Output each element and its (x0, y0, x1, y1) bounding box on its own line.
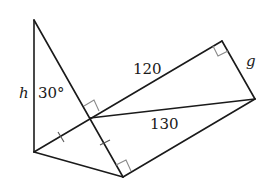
label-g: g (246, 52, 256, 70)
segment-b-c (34, 152, 123, 177)
right-angle-mark-o (84, 100, 99, 111)
label-h: h (19, 84, 29, 102)
geometry-diagram: h 30° 120 130 g (0, 0, 269, 191)
label-120: 120 (133, 60, 162, 78)
label-130: 130 (150, 115, 179, 133)
segment-c-e (123, 99, 255, 177)
segment-g (222, 41, 255, 99)
label-angle: 30° (38, 84, 65, 102)
